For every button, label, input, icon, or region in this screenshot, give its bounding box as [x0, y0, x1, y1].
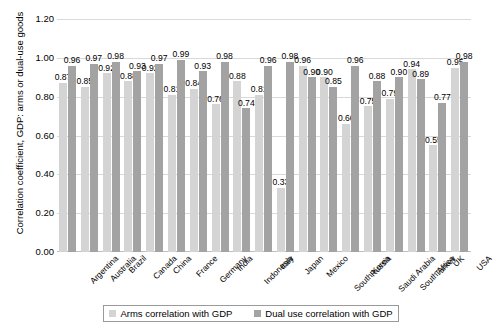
y-axis-tick-label: 0.20: [22, 208, 54, 218]
legend-item: Dual use correlation with GDP: [254, 309, 392, 319]
bar-group: 0.330.98: [275, 19, 297, 252]
bar-arms: [212, 104, 220, 252]
bar-dual: [177, 60, 185, 252]
bar-group: 0.810.99: [166, 19, 188, 252]
bar-dual: [68, 66, 76, 252]
y-axis-tick-label: 1.20: [22, 14, 54, 24]
bar-group: 0.950.98: [449, 19, 471, 252]
bar-arms: [124, 81, 132, 252]
bar-dual: [221, 62, 229, 252]
bar-dual: [90, 64, 98, 252]
bar-arms: [168, 95, 176, 252]
bar-arms: [342, 124, 350, 252]
bar-dual: [112, 62, 120, 252]
bar-arms: [320, 77, 328, 252]
bar-group: 0.790.90: [384, 19, 406, 252]
bar-group: 0.840.93: [188, 19, 210, 252]
bar-group: 0.550.77: [427, 19, 449, 252]
bar-group: 0.920.98: [101, 19, 123, 252]
y-axis-tick-label: 0.80: [22, 92, 54, 102]
bar-arms: [190, 89, 198, 252]
bar-dual: [460, 62, 468, 252]
bar-group: 0.870.96: [57, 19, 79, 252]
bar-arms: [81, 87, 89, 252]
bar-dual: [351, 66, 359, 252]
y-axis-tick-labels: 1.201.000.800.600.400.200.00: [18, 19, 54, 252]
bar-value-label: 0.90: [312, 68, 336, 77]
bar-dual: [329, 87, 337, 252]
bar-dual: [286, 62, 294, 252]
bar-arms: [429, 145, 437, 252]
bar-arms: [386, 99, 394, 252]
bar-group: 0.660.96: [340, 19, 362, 252]
x-axis-label: France: [194, 254, 219, 279]
bar-dual: [308, 77, 316, 252]
bar-arms: [299, 66, 307, 252]
bar-group: 0.750.88: [362, 19, 384, 252]
bar-group: 0.850.97: [79, 19, 101, 252]
bar-arms: [59, 83, 67, 252]
bar-group: 0.810.96: [253, 19, 275, 252]
bar-group: 0.920.97: [144, 19, 166, 252]
bar-dual: [242, 108, 250, 252]
y-axis-tick-label: 0.40: [22, 169, 54, 179]
bar-dual: [395, 77, 403, 252]
x-axis-category-labels: ArgentinaAustraliaBrazilCanadaChinaFranc…: [57, 252, 471, 300]
bar-arms: [255, 95, 263, 252]
legend-label: Dual use correlation with GDP: [265, 309, 392, 319]
bar-arms: [146, 73, 154, 252]
bar-group: 0.880.74: [231, 19, 253, 252]
bar-group: 0.880.93: [122, 19, 144, 252]
x-axis-label: Mexico: [325, 254, 350, 279]
bar-value-label: 0.98: [452, 52, 476, 61]
bar-group: 0.960.90: [297, 19, 319, 252]
bar-group: 0.900.85: [318, 19, 340, 252]
bar-arms: [277, 188, 285, 252]
bar-dual: [133, 71, 141, 252]
x-axis-label: Japan: [302, 254, 325, 277]
chart-legend: Arms correlation with GDPDual use correl…: [103, 305, 399, 322]
bar-group: 0.760.98: [210, 19, 232, 252]
bar-dual: [438, 103, 446, 253]
y-axis-tick-label: 1.00: [22, 53, 54, 63]
legend-swatch-icon: [254, 310, 261, 317]
plot-area: 0.870.960.850.970.920.980.880.930.920.97…: [57, 19, 471, 252]
y-axis-tick-label: 0.00: [22, 247, 54, 257]
x-axis-label: USA: [475, 254, 494, 273]
legend-label: Arms correlation with GDP: [120, 309, 232, 319]
bar-arms: [103, 73, 111, 252]
legend-item: Arms correlation with GDP: [109, 309, 232, 319]
bar-dual: [417, 79, 425, 252]
legend-swatch-icon: [109, 310, 116, 317]
x-axis-label: Russia: [368, 254, 392, 278]
bar-dual: [264, 66, 272, 252]
bar-arms: [364, 106, 372, 252]
bar-value-label: 0.96: [291, 56, 315, 65]
y-axis-tick-label: 0.60: [22, 131, 54, 141]
bar-dual: [373, 81, 381, 252]
bar-value-label: 0.88: [225, 72, 249, 81]
bar-value-label: 0.94: [400, 60, 424, 69]
bar-arms: [408, 69, 416, 252]
bar-arms: [451, 68, 459, 252]
